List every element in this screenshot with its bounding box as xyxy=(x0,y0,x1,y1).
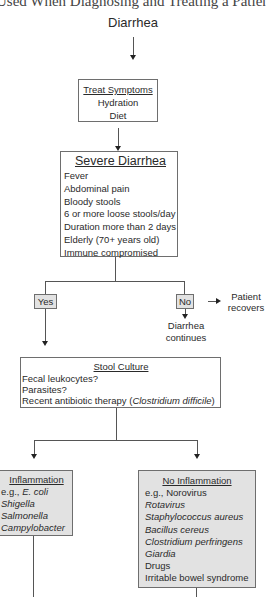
outcome-line: recovers xyxy=(224,302,266,313)
pathogen-item: Irritable bowel syndrome xyxy=(145,572,255,584)
treat-symptoms-item: Hydration xyxy=(79,96,157,109)
connector-line xyxy=(115,257,116,282)
arrow-down-icon xyxy=(42,341,48,346)
pathogen-item: Giardia xyxy=(145,548,255,560)
pathogen-item: e.g., Norovirus xyxy=(145,487,255,499)
symptom-item: Elderly (70+ years old) xyxy=(64,234,177,247)
connector-line xyxy=(197,440,198,454)
outcome-line: Patient xyxy=(224,291,266,302)
pathogen-item: Clostridium perfringens xyxy=(145,536,255,548)
chart-title: Used When Diagnosing and Treating a Pati… xyxy=(0,0,266,10)
antibiotic-text: Recent antibiotic therapy ( xyxy=(22,395,132,406)
treat-symptoms-item: Diet xyxy=(79,109,157,122)
no-decision-box: No xyxy=(176,294,194,309)
no-inflammation-header: No Inflammation xyxy=(139,474,255,487)
antibiotic-text: ) xyxy=(212,395,215,406)
arrow-down-icon xyxy=(182,314,188,319)
treat-symptoms-header: Treat Symptoms xyxy=(79,83,157,96)
symptom-item: Fever xyxy=(64,170,177,183)
patient-recovers-label: Patient recovers xyxy=(224,291,266,313)
pathogen-item: Salmonella xyxy=(1,510,72,522)
pathogen-item: Bacillus cereus xyxy=(145,524,255,536)
stool-culture-item: Recent antibiotic therapy (Clostridium d… xyxy=(22,395,220,406)
connector-line xyxy=(184,281,185,294)
pathogen-item: Campylobacter xyxy=(1,522,72,534)
arrow-down-icon xyxy=(194,454,200,459)
no-inflammation-box: No Inflammation e.g., Norovirus Rotaviru… xyxy=(138,470,256,588)
inflammation-box: Inflammation e.g., E. coli Shigella Salm… xyxy=(0,470,73,536)
treat-symptoms-box: Treat Symptoms Hydration Diet xyxy=(78,79,158,122)
pathogen-item: Staphylococcus aureus xyxy=(145,511,255,523)
stool-culture-header: Stool Culture xyxy=(22,360,220,373)
pathogen-name: Norovirus xyxy=(166,487,207,498)
connector-line xyxy=(118,128,119,146)
symptom-item: Abdominal pain xyxy=(64,183,177,196)
symptom-item: Immune compromised xyxy=(64,247,177,260)
connector-line xyxy=(34,440,35,454)
connector-line xyxy=(34,440,198,441)
pathogen-name: E. coli xyxy=(22,486,48,497)
outcome-line: Diarrhea xyxy=(160,320,212,332)
pathogen-item: Shigella xyxy=(1,498,72,510)
connector-line xyxy=(45,309,46,341)
diarrhea-continues-label: Diarrhea continues xyxy=(160,320,212,344)
stool-culture-item: Fecal leukocytes? xyxy=(22,373,220,384)
connector-line xyxy=(196,588,197,597)
pathogen-item: Drugs xyxy=(145,560,255,572)
stool-culture-item: Parasites? xyxy=(22,384,220,395)
arrow-right-icon xyxy=(216,298,221,304)
connector-line xyxy=(116,408,117,440)
symptom-item: Duration more than 2 days xyxy=(64,221,177,234)
stool-culture-box: Stool Culture Fecal leukocytes? Parasite… xyxy=(20,357,221,408)
symptom-item: 6 or more loose stools/day xyxy=(64,208,177,221)
organism-name: Clostridium difficile xyxy=(132,395,211,406)
severe-diarrhea-box: Severe Diarrhea Fever Abdominal pain Blo… xyxy=(60,151,178,257)
connector-line xyxy=(45,281,185,282)
connector-line xyxy=(133,37,134,55)
arrow-down-icon xyxy=(31,454,37,459)
outcome-line: continues xyxy=(160,332,212,344)
inflammation-header: Inflammation xyxy=(1,473,72,486)
severe-diarrhea-header: Severe Diarrhea xyxy=(64,154,177,169)
symptom-item: Bloody stools xyxy=(64,196,177,209)
start-node-diarrhea: Diarrhea xyxy=(83,15,183,30)
pathogen-item: e.g., E. coli xyxy=(1,486,72,498)
eg-prefix: e.g., xyxy=(1,486,22,497)
arrow-down-icon xyxy=(130,55,136,60)
eg-prefix: e.g., xyxy=(145,487,166,498)
connector-line xyxy=(45,281,46,294)
connector-line xyxy=(33,536,34,597)
yes-decision-box: Yes xyxy=(34,294,57,309)
pathogen-item: Rotavirus xyxy=(145,499,255,511)
